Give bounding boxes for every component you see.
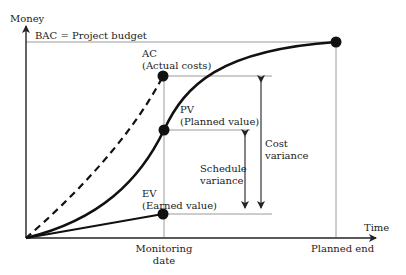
ev-label-abbr: EV	[142, 188, 157, 200]
pv-label-abbr: PV	[180, 104, 194, 116]
pv-label-name: (Planned value)	[180, 116, 259, 128]
monitoring-date-label-1: Monitoring	[134, 243, 194, 255]
ev-line	[26, 214, 163, 238]
ac-label-name: (Actual costs)	[142, 60, 211, 72]
cost-variance-label-1: Cost	[265, 138, 288, 150]
ac-curve-dashed	[26, 76, 163, 238]
ac-label-abbr: AC	[142, 48, 157, 60]
ac-point	[158, 71, 169, 82]
monitoring-date-label-2: date	[134, 255, 194, 267]
bac-label: BAC = Project budget	[35, 30, 147, 42]
ev-label-name: (Earned value)	[142, 200, 217, 212]
cost-variance-label-2: variance	[265, 150, 309, 162]
pv-point	[159, 125, 170, 136]
schedule-variance-label-1: Schedule	[200, 163, 247, 175]
x-axis-label: Time	[364, 222, 389, 234]
y-axis-label: Money	[10, 13, 44, 25]
schedule-variance-label-2: variance	[200, 175, 244, 187]
planned-end-label: Planned end	[311, 243, 374, 255]
bac-point	[331, 37, 342, 48]
